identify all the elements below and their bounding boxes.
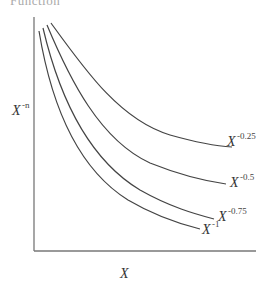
label-exp-neg-1: -1 bbox=[212, 219, 220, 229]
x-axis-label: X bbox=[119, 266, 129, 281]
curve-x-neg-0.5 bbox=[47, 25, 226, 184]
label-exp-neg-0.25: -0.25 bbox=[237, 131, 256, 141]
y-axis-label-exp: -n bbox=[22, 100, 30, 110]
label-exp-neg-0.5: -0.5 bbox=[240, 172, 255, 182]
label-x-neg-0.5: X bbox=[229, 175, 239, 190]
curve-x-neg-0.25 bbox=[51, 23, 232, 147]
label-x-neg-1: X bbox=[201, 222, 211, 237]
label-x-neg-0.25: X bbox=[226, 134, 236, 149]
y-axis-label: X bbox=[11, 103, 21, 118]
chart-canvas: X -0.25 X -0.5 X -0.75 X -1 X -n X bbox=[0, 0, 267, 294]
curve-x-neg-0.75 bbox=[43, 28, 214, 219]
label-exp-neg-0.75: -0.75 bbox=[228, 206, 247, 216]
